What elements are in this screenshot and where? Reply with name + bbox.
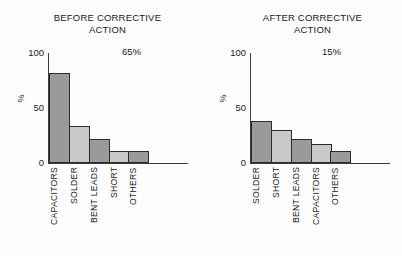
- bar-group-after: [251, 53, 350, 163]
- bar[interactable]: [330, 151, 351, 163]
- chart-panel-after: AFTER CORRECTIVE ACTION 15% % 100 50 0 S…: [201, 0, 402, 256]
- bar-group-before: [49, 53, 148, 163]
- chart-title-after: AFTER CORRECTIVE ACTION: [201, 12, 402, 35]
- figure-canvas: BEFORE CORRECTIVE ACTION 65% % 100 50 0 …: [0, 0, 402, 256]
- chart-title-before: BEFORE CORRECTIVE ACTION: [0, 12, 201, 35]
- bar[interactable]: [311, 144, 332, 163]
- plot-area-before: 100 50 0 CAPACITORS SOLDER BENT LEADS SH…: [48, 53, 188, 163]
- y-axis-label-before: %: [16, 94, 26, 103]
- y-tick-0-before: 0: [39, 158, 44, 168]
- y-axis-label-after: %: [218, 94, 228, 103]
- x-tick-label: CAPACITORS: [311, 167, 332, 251]
- x-tick-label: SHORT: [109, 167, 130, 251]
- bar[interactable]: [89, 139, 110, 163]
- y-tick-100-after: 100: [230, 48, 246, 58]
- chart-panel-before: BEFORE CORRECTIVE ACTION 65% % 100 50 0 …: [0, 0, 201, 256]
- y-tick-0-after: 0: [241, 158, 246, 168]
- x-tick-label: SHORT: [271, 167, 292, 251]
- bar[interactable]: [109, 151, 130, 163]
- x-tick-label: SOLDER: [69, 167, 90, 251]
- x-axis-line-after: [250, 163, 390, 164]
- y-tick-50-before: 50: [33, 103, 44, 113]
- bar[interactable]: [49, 73, 70, 163]
- x-tick-label: SOLDER: [251, 167, 272, 251]
- x-tick-label-group-before: CAPACITORS SOLDER BENT LEADS SHORT OTHER…: [49, 167, 148, 251]
- x-axis-line-before: [48, 163, 188, 164]
- y-tick-100-before: 100: [28, 48, 44, 58]
- bar[interactable]: [128, 151, 149, 163]
- bar[interactable]: [271, 130, 292, 163]
- plot-area-after: 100 50 0 SOLDER SHORT BENT LEADS CAPACIT…: [250, 53, 390, 163]
- x-tick-label: BENT LEADS: [89, 167, 110, 251]
- bar[interactable]: [291, 139, 312, 163]
- y-tick-50-after: 50: [235, 103, 246, 113]
- bar[interactable]: [251, 121, 272, 163]
- x-tick-label: OTHERS: [330, 167, 351, 251]
- x-tick-label-group-after: SOLDER SHORT BENT LEADS CAPACITORS OTHER…: [251, 167, 350, 251]
- x-tick-label: OTHERS: [128, 167, 149, 251]
- bar[interactable]: [69, 126, 90, 163]
- x-tick-label: CAPACITORS: [49, 167, 70, 251]
- x-tick-label: BENT LEADS: [291, 167, 312, 251]
